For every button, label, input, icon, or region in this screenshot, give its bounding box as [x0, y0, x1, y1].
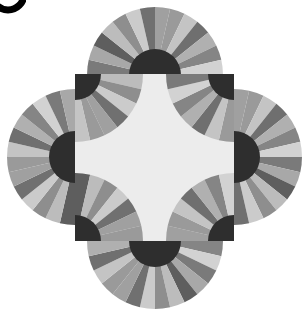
cropped-letter-glyph	[0, 0, 26, 14]
fan-left	[7, 89, 75, 225]
quilt-image	[0, 0, 304, 311]
fan-bottom	[87, 241, 223, 309]
fan-top	[87, 7, 223, 75]
fan-right	[234, 89, 302, 225]
